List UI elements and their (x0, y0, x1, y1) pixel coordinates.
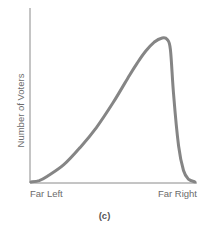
distribution-curve (31, 38, 195, 182)
x-axis-label-far-right: Far Right (158, 188, 197, 199)
figure-caption: (c) (0, 210, 209, 221)
y-axis-label: Number of Voters (15, 74, 26, 148)
x-axis-label-far-left: Far Left (30, 188, 63, 199)
